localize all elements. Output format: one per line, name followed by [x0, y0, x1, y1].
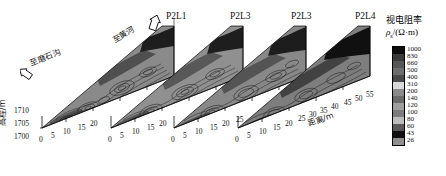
colorbar-swatch [393, 103, 404, 110]
p2l3a-xtick-10: 10 [132, 127, 140, 136]
colorbar-swatch [393, 117, 404, 124]
colorbar: 100083066050040031020014012010080604326 [392, 46, 441, 146]
p2l3a-xtick-5: 5 [120, 131, 124, 140]
p2l4-xtick-40: 40 [331, 102, 339, 111]
p2l3a-xtick-15: 15 [147, 123, 155, 132]
panel-title-p2l3-a: P2L3 [230, 11, 251, 21]
p2l4-xtick-10: 10 [259, 127, 267, 136]
x-tick-label: 0 [235, 135, 239, 144]
y-axis-title: 高程/m [0, 100, 7, 127]
colorbar-swatches [392, 46, 405, 146]
x-tick-label: 20 [285, 119, 293, 128]
legend-unit-label: /(Ω·m) [393, 27, 418, 37]
y-tick-1710: 1710 [14, 106, 29, 115]
colorbar-tick-label: 26 [407, 137, 414, 144]
p2l1-xtick-0: 0 [39, 135, 43, 144]
x-tick-label: 15 [273, 123, 281, 132]
p2l3b-xtick-0: 0 [171, 135, 175, 144]
panel-title-p2l3-b: P2L3 [291, 11, 312, 21]
colorbar-swatch [393, 96, 404, 103]
y-tick-label: 1710 [14, 106, 29, 115]
colorbar-swatch [393, 61, 404, 68]
p2l4-xtick-5: 5 [247, 131, 251, 140]
x-tick-label: 5 [247, 131, 251, 140]
x-tick-label: 15 [78, 123, 86, 132]
p2l4-xtick-45: 45 [344, 98, 352, 107]
y-tick-label: 1705 [14, 119, 29, 128]
p2l4-xtick-55: 55 [366, 90, 374, 99]
panel-label: P2L1 [166, 11, 187, 21]
arrow-icon-moshigou [20, 64, 34, 80]
colorbar-swatch [393, 82, 404, 89]
x-tick-label: 10 [195, 127, 203, 136]
p2l1-xtick-20: 20 [90, 119, 98, 128]
x-tick-label: 5 [51, 131, 55, 140]
colorbar-swatch [393, 131, 404, 138]
p2l1-xtick-15: 15 [78, 123, 86, 132]
p2l4-xtick-0: 0 [235, 135, 239, 144]
p2l3a-xtick-20: 20 [159, 119, 167, 128]
x-tick-label: 50 [355, 94, 363, 103]
panel-label: P2L3 [291, 11, 312, 21]
y-tick-label: 1700 [14, 132, 29, 141]
x-tick-label: 20 [222, 119, 230, 128]
colorbar-swatch [393, 138, 404, 145]
colorbar-swatch [393, 75, 404, 82]
x-tick-label: 10 [132, 127, 140, 136]
p2l3b-xtick-5: 5 [183, 131, 187, 140]
x-tick-label: 5 [120, 131, 124, 140]
p2l1-xtick-5: 5 [51, 131, 55, 140]
x-tick-label: 10 [63, 127, 71, 136]
y-axis-title-label: 高程/m [0, 100, 7, 127]
p2l3b-xtick-10: 10 [195, 127, 203, 136]
p2l3b-xtick-20: 20 [222, 119, 230, 128]
panel-label: P2L4 [355, 11, 376, 21]
x-tick-label: 40 [331, 102, 339, 111]
p2l4-xtick-25: 25 [298, 114, 306, 123]
colorbar-swatch [393, 54, 404, 61]
x-tick-label: 15 [147, 123, 155, 132]
legend-unit: ρs/(Ω·m) [386, 27, 418, 39]
figure-root: 至磨石沟 至黄河 P2L1 [0, 0, 446, 176]
colorbar-swatch [393, 89, 404, 96]
x-tick-label: 0 [39, 135, 43, 144]
x-tick-label: 20 [159, 119, 167, 128]
x-tick-label: 5 [183, 131, 187, 140]
x-tick-label: 0 [108, 135, 112, 144]
p2l3a-xtick-0: 0 [108, 135, 112, 144]
x-tick-label: 10 [259, 127, 267, 136]
colorbar-swatch [393, 47, 404, 54]
colorbar-swatch [393, 68, 404, 75]
x-tick-label: 20 [90, 119, 98, 128]
y-tick-1705: 1705 [14, 119, 29, 128]
y-tick-1700: 1700 [14, 132, 29, 141]
x-tick-label: 25 [298, 114, 306, 123]
p2l4-xtick-15: 15 [273, 123, 281, 132]
x-tick-label: 15 [210, 123, 218, 132]
colorbar-swatch [393, 110, 404, 117]
panel-title-p2l4: P2L4 [355, 11, 376, 21]
x-tick-label: 0 [171, 135, 175, 144]
p2l1-xtick-10: 10 [63, 127, 71, 136]
x-tick-label: 55 [366, 90, 374, 99]
panel-label: P2L3 [230, 11, 251, 21]
panel-title-p2l1: P2L1 [166, 11, 187, 21]
legend-title: 视电阻率 [386, 13, 422, 26]
legend-title-label: 视电阻率 [386, 15, 422, 25]
p2l4-xtick-50: 50 [355, 94, 363, 103]
colorbar-swatch [393, 124, 404, 131]
x-tick-label: 45 [344, 98, 352, 107]
colorbar-labels: 100083066050040031020014012010080604326 [407, 46, 441, 144]
p2l3b-xtick-15: 15 [210, 123, 218, 132]
p2l4-xtick-20: 20 [285, 119, 293, 128]
